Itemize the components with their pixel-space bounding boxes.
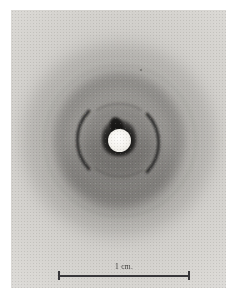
scale-bar-tick-left bbox=[58, 271, 60, 280]
film-grain-highlights bbox=[11, 10, 226, 288]
scale-bar-tick-right bbox=[188, 271, 190, 280]
scale-bar: 1 cm. bbox=[58, 262, 190, 282]
scale-bar-line bbox=[58, 275, 190, 277]
scale-bar-label: 1 cm. bbox=[58, 262, 190, 272]
diffraction-photograph: 1 cm. bbox=[11, 10, 226, 288]
figure-root: 1 cm. bbox=[0, 0, 237, 294]
